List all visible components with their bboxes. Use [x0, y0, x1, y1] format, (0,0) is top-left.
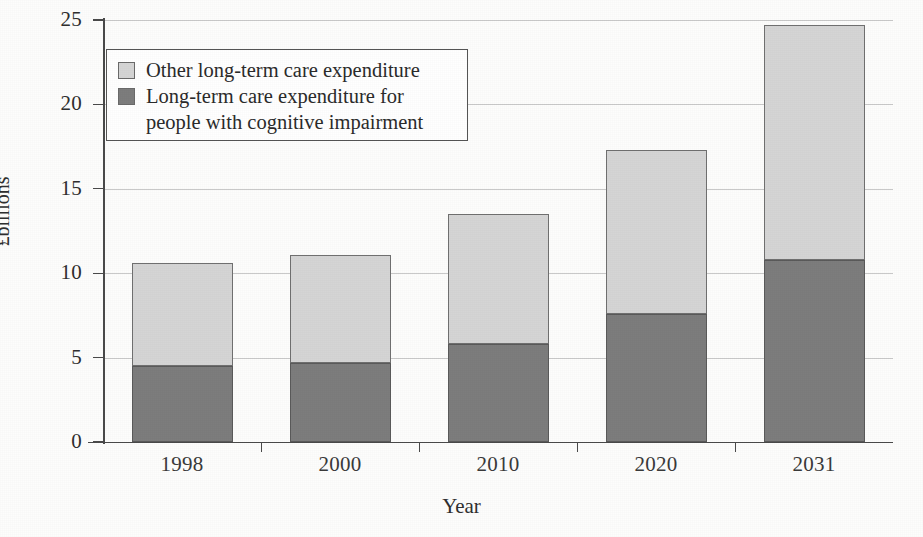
x-tick-3	[577, 442, 578, 452]
legend-swatch-other-icon	[118, 62, 135, 79]
x-tick-label-2000: 2000	[280, 452, 400, 477]
bar-segment-other-2000[interactable]	[290, 255, 391, 363]
y-tick-label-15: 15	[22, 178, 82, 199]
y-tick-label-20: 20	[22, 93, 82, 114]
bar-segment-cognitive-2000[interactable]	[290, 363, 391, 442]
legend-item-other: Other long-term care expenditure	[118, 57, 457, 83]
bar-segment-other-2010[interactable]	[448, 214, 549, 344]
legend: Other long-term care expenditure Long-te…	[106, 49, 468, 141]
x-tick-label-2020: 2020	[596, 452, 716, 477]
bar-segment-cognitive-2031[interactable]	[764, 260, 865, 442]
stacked-bar-chart: 0510152025 19982000201020202031 £billion…	[0, 0, 923, 537]
bar-segment-other-2031[interactable]	[764, 25, 865, 260]
x-tick-4	[735, 442, 736, 452]
y-tick-label-10: 10	[22, 262, 82, 283]
bar-group-2020[interactable]	[606, 20, 707, 442]
bar-segment-cognitive-2020[interactable]	[606, 314, 707, 442]
x-tick-2	[419, 442, 420, 452]
bar-segment-other-2020[interactable]	[606, 150, 707, 314]
y-axis-title: £billions	[0, 176, 14, 246]
bar-segment-cognitive-2010[interactable]	[448, 344, 549, 442]
bar-group-2031[interactable]	[764, 20, 865, 442]
bar-segment-cognitive-1998[interactable]	[132, 366, 233, 442]
x-tick-1	[261, 442, 262, 452]
x-tick-label-2031: 2031	[754, 452, 874, 477]
legend-label-cognitive: Long-term care expenditure for people wi…	[146, 83, 457, 135]
legend-item-cognitive: Long-term care expenditure for people wi…	[118, 83, 457, 135]
x-axis-title: Year	[0, 494, 923, 519]
y-tick-label-25: 25	[22, 9, 82, 30]
x-tick-label-1998: 1998	[122, 452, 242, 477]
y-tick-label-5: 5	[22, 347, 82, 368]
legend-label-other: Other long-term care expenditure	[146, 57, 457, 83]
y-tick-label-0: 0	[22, 431, 82, 452]
legend-swatch-cognitive-icon	[118, 88, 135, 105]
x-tick-label-2010: 2010	[438, 452, 558, 477]
bar-segment-other-1998[interactable]	[132, 263, 233, 366]
